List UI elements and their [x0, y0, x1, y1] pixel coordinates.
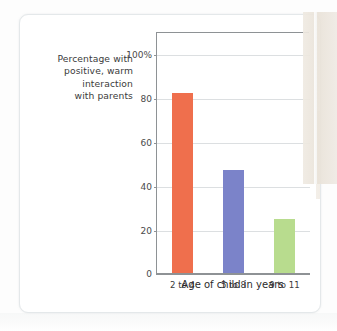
y-tick-label-80: 80	[141, 94, 152, 104]
y-tick-label-0: 0	[146, 269, 152, 279]
y-tick-mark-80	[154, 99, 158, 100]
y-axis-label-line-3: interaction	[26, 78, 133, 90]
y-tick-label-40: 40	[141, 182, 152, 192]
bar-2-to-4[interactable]	[172, 93, 193, 273]
bar-9-to-11[interactable]	[274, 219, 295, 274]
y-tick-label-100: 100%	[126, 50, 152, 60]
y-tick-mark-20	[154, 231, 158, 232]
y-tick-mark-100	[154, 55, 158, 56]
bar-5-to-8[interactable]	[223, 170, 244, 273]
y-tick-label-60: 60	[141, 138, 152, 148]
y-tick-mark-40	[154, 187, 158, 188]
scanned-paper-strip	[303, 12, 337, 184]
y-tick-label-20: 20	[141, 226, 152, 236]
y-tick-mark-60	[154, 143, 158, 144]
gridline-100: 100%	[157, 55, 310, 56]
x-axis-line	[157, 273, 310, 275]
page-scan-shading	[0, 313, 337, 331]
bar-chart: Percentage with positive, warm interacti…	[20, 15, 320, 312]
x-axis-title: Age of child in years	[156, 279, 309, 290]
y-axis-label-line-1: Percentage with	[26, 53, 133, 65]
y-axis-label-line-4: with parents	[26, 90, 133, 102]
figure-card: Percentage with positive, warm interacti…	[19, 14, 321, 313]
y-axis-label: Percentage with positive, warm interacti…	[26, 53, 133, 102]
scanned-paper-strip-edge	[314, 12, 317, 184]
y-axis-label-line-2: positive, warm	[26, 65, 133, 77]
plot-area: 100% 80 60 40 20 0	[156, 32, 309, 275]
